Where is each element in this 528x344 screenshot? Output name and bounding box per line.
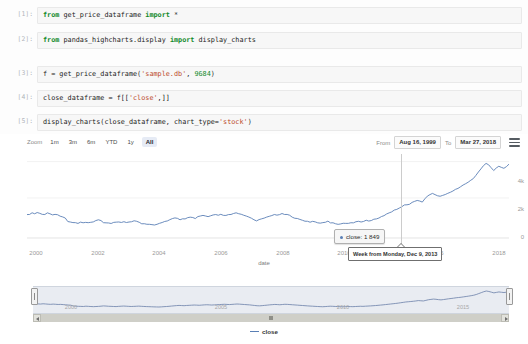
range-button-1y[interactable]: 1y	[125, 137, 135, 147]
tooltip-series-dot	[340, 236, 343, 239]
to-label: To	[445, 140, 451, 146]
cell-prompt-4: [4]:	[0, 90, 37, 104]
cell-prompt-5: [5]:	[0, 114, 37, 128]
cell-code-1: from get_price_dataframe import *	[38, 10, 178, 21]
chart-navigator[interactable]: 2000 2005 2010 2015	[33, 286, 509, 312]
y-tick-2k: 2k	[518, 206, 524, 212]
scrollbar-right-arrow-icon[interactable]	[501, 314, 509, 322]
notebook-page: [1]: from get_price_dataframe import * […	[0, 0, 528, 344]
legend-line-close	[250, 331, 259, 333]
navigator-handle-right[interactable]	[506, 288, 513, 305]
range-button-all[interactable]: All	[142, 137, 158, 147]
cell-code-4: close_dataframe = f[['close',]]	[38, 93, 170, 104]
close-series-line	[27, 163, 509, 225]
notebook-cell-5[interactable]: [5]: display_charts(close_dataframe, cha…	[0, 114, 528, 131]
cell-input-4[interactable]: close_dataframe = f[['close',]]	[37, 90, 522, 107]
navigator-mini-chart	[33, 287, 509, 313]
navigator-tick-2000: 2000	[65, 304, 77, 310]
hamburger-menu-icon[interactable]	[509, 138, 520, 147]
scrollbar-left-arrow-icon[interactable]	[33, 314, 41, 322]
zoom-label: Zoom	[27, 139, 42, 145]
x-axis-tooltip: Week from Monday, Dec 9, 2013	[348, 247, 442, 261]
point-tooltip: close: 1 849	[334, 229, 385, 244]
x-tick-2008: 2008	[276, 250, 289, 256]
main-plot-area[interactable]: 4k 2k 0 close: 1 849 2000 2002 2004 2006…	[0, 154, 528, 270]
range-button-1m[interactable]: 1m	[48, 137, 60, 147]
x-tick-2002: 2002	[91, 250, 104, 256]
crosshair-line	[401, 154, 402, 246]
notebook-cell-2[interactable]: [2]: from pandas_highcharts.display impo…	[0, 32, 528, 49]
x-tick-2018: 2018	[492, 250, 505, 256]
notebook-cell-4[interactable]: [4]: close_dataframe = f[['close',]]	[0, 90, 528, 107]
cell-input-1[interactable]: from get_price_dataframe import *	[37, 7, 522, 24]
range-button-6m[interactable]: 6m	[85, 137, 97, 147]
x-axis-title: date	[258, 260, 270, 266]
x-tick-2004: 2004	[152, 250, 165, 256]
scrollbar-thumb-grip[interactable]	[269, 316, 273, 320]
cell-code-3: f = get_price_dataframe('sample.db', 968…	[38, 69, 215, 80]
range-button-3m[interactable]: 3m	[67, 137, 79, 147]
x-tick-2006: 2006	[214, 250, 227, 256]
notebook-cell-1[interactable]: [1]: from get_price_dataframe import *	[0, 7, 528, 24]
notebook-cell-3[interactable]: [3]: f = get_price_dataframe('sample.db'…	[0, 66, 528, 83]
cell-input-3[interactable]: f = get_price_dataframe('sample.db', 968…	[37, 66, 522, 83]
y-tick-4k: 4k	[518, 178, 524, 184]
cell-prompt-1: [1]:	[0, 7, 37, 21]
price-line-chart	[0, 154, 528, 270]
cell-prompt-3: [3]:	[0, 66, 37, 80]
zoom-button-group: Zoom 1m 3m 6m YTD 1y All	[27, 137, 157, 147]
from-label: From	[376, 140, 390, 146]
tooltip-text: close: 1 849	[346, 233, 379, 240]
from-date-input[interactable]: Aug 16, 1999	[394, 136, 441, 149]
x-tick-2000: 2000	[29, 250, 42, 256]
navigator-handle-left[interactable]	[31, 288, 38, 305]
y-tick-0: 0	[521, 234, 524, 240]
legend-label-close[interactable]: close	[262, 328, 278, 335]
navigator-tick-2015: 2015	[457, 304, 469, 310]
date-range-inputs: From Aug 16, 1999 To Mar 27, 2018	[376, 136, 520, 149]
cell-input-5[interactable]: display_charts(close_dataframe, chart_ty…	[37, 114, 522, 131]
chart-scrollbar[interactable]	[33, 314, 509, 322]
cell-prompt-2: [2]:	[0, 32, 37, 46]
cell-input-2[interactable]: from pandas_highcharts.display import di…	[37, 32, 522, 49]
cell-code-5: display_charts(close_dataframe, chart_ty…	[38, 117, 252, 128]
to-date-input[interactable]: Mar 27, 2018	[455, 136, 501, 149]
range-button-ytd[interactable]: YTD	[103, 137, 119, 147]
cell-code-2: from pandas_highcharts.display import di…	[38, 35, 256, 46]
gridlines	[27, 162, 509, 238]
highstock-chart-output: Zoom 1m 3m 6m YTD 1y All From Aug 16, 19…	[0, 134, 528, 344]
navigator-track[interactable]	[33, 286, 509, 314]
navigator-tick-2005: 2005	[215, 304, 227, 310]
range-selector-toolbar: Zoom 1m 3m 6m YTD 1y All From Aug 16, 19…	[0, 134, 528, 154]
chart-legend[interactable]: close	[0, 328, 528, 335]
navigator-tick-2010: 2010	[337, 304, 349, 310]
